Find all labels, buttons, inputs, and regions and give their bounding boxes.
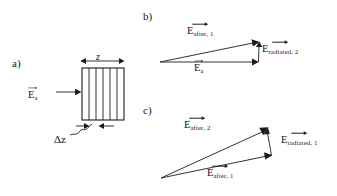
vector-e-after-1-lower <box>161 152 273 178</box>
panel-c-graphics <box>0 0 337 196</box>
figure-canvas: a) z Ea Δz <box>0 0 337 196</box>
vector-e-after-2 <box>161 127 269 178</box>
